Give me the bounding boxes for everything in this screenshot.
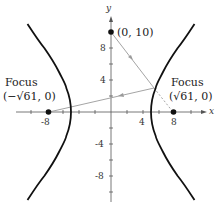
left-focus-title: Focus: [5, 76, 38, 89]
y-axis-arrow-icon: [109, 16, 113, 22]
left-focus-point: [46, 109, 52, 115]
diagram-canvas: [0, 0, 222, 211]
y-axis-label: y: [106, 3, 111, 13]
x-axis-arrow-icon: [201, 110, 207, 114]
hyperbola-diagram: y x -8 4 8 8 4 -4 -8 (0, 10) Focus (−√61…: [0, 0, 222, 211]
x-tick-4: 4: [139, 117, 145, 127]
x-tick-8: 8: [171, 117, 177, 127]
incident-ray: [111, 32, 154, 88]
y-axis: [109, 20, 113, 202]
x-tick-neg8: -8: [41, 117, 50, 127]
reflected-ray: [49, 88, 154, 112]
left-focus-coords: (−√61, 0): [3, 90, 56, 103]
y-tick-neg4: -4: [95, 139, 104, 149]
right-focus-title: Focus: [171, 76, 204, 89]
right-focus-point: [171, 109, 177, 115]
right-focus-coords: (√61, 0): [169, 90, 213, 103]
point-0-10: [108, 29, 114, 35]
x-axis-label: x: [209, 106, 214, 116]
y-tick-neg8: -8: [95, 171, 104, 181]
y-tick-4: 4: [100, 75, 106, 85]
point-0-10-label: (0, 10): [117, 26, 154, 39]
y-tick-8: 8: [100, 43, 106, 53]
